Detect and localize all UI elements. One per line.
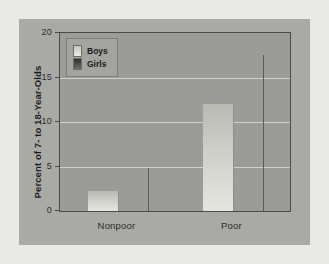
x-tick-label: Nonpoor [98,220,136,231]
plot-area: Boys Girls [59,32,291,212]
y-tick-label: 15 [42,72,52,82]
y-tick-label: 5 [47,161,52,171]
legend-swatch-girls [73,58,82,70]
legend-item-boys: Boys [73,45,108,57]
legend-swatch-boys [73,45,82,57]
legend-item-girls: Girls [73,58,108,70]
y-tick-label: 20 [42,27,52,37]
bar-poor-boys [203,104,234,211]
y-tick-label: 0 [47,205,52,215]
figure-panel: Percent of 7- to 18-Year-Olds 05101520 B… [19,19,310,245]
x-tick-label: Poor [221,220,242,231]
bar-nonpoor-boys [88,191,119,211]
legend: Boys Girls [66,38,118,77]
legend-label-girls: Girls [87,59,106,69]
legend-label-boys: Boys [87,46,108,56]
bar-poor-girls [233,55,264,211]
bar-nonpoor-girls [118,168,149,211]
y-tick-label: 10 [42,116,52,126]
